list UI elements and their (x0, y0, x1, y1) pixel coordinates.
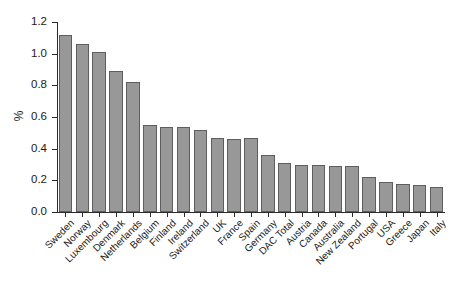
x-tick-mark (251, 212, 252, 217)
x-tick-mark (167, 212, 168, 217)
bar (59, 35, 72, 212)
bar (295, 165, 308, 213)
y-tick-label: 1.2 (7, 16, 47, 28)
x-tick-mark (285, 212, 286, 217)
x-tick-mark (386, 212, 387, 217)
x-tick-mark (99, 212, 100, 217)
x-tick-mark (65, 212, 66, 217)
bar (430, 187, 443, 212)
bar (160, 127, 173, 213)
x-tick-mark (184, 212, 185, 217)
y-tick-label: 0.2 (7, 174, 47, 186)
x-tick-mark (369, 212, 370, 217)
x-tick-mark (116, 212, 117, 217)
y-tick-label: 0.8 (7, 79, 47, 91)
bar (126, 82, 139, 212)
x-tick-mark (82, 212, 83, 217)
x-tick-mark (234, 212, 235, 217)
y-tick-mark (52, 212, 58, 213)
bar (329, 166, 342, 212)
x-tick-mark (200, 212, 201, 217)
x-tick-mark (335, 212, 336, 217)
bar (211, 138, 224, 212)
x-tick-mark (217, 212, 218, 217)
y-tick-label: 0.6 (7, 111, 47, 123)
x-tick-mark (352, 212, 353, 217)
x-tick-mark (133, 212, 134, 217)
bar-chart-figure: % 0.00.20.40.60.81.01.2 SwedenNorwayLuxe… (0, 0, 451, 293)
bar (379, 182, 392, 212)
bar (109, 71, 122, 212)
bar (177, 127, 190, 213)
bar (143, 125, 156, 212)
y-tick-label: 1.0 (7, 48, 47, 60)
plot-area (57, 22, 445, 212)
bar (76, 44, 89, 212)
x-tick-mark (302, 212, 303, 217)
bar (92, 52, 105, 212)
x-tick-mark (318, 212, 319, 217)
bar (278, 163, 291, 212)
bar (413, 185, 426, 212)
bar (312, 165, 325, 213)
bar (227, 139, 240, 212)
bar (362, 177, 375, 212)
y-tick-label: 0.0 (7, 206, 47, 218)
bar (345, 166, 358, 212)
x-tick-mark (403, 212, 404, 217)
x-tick-mark (437, 212, 438, 217)
bar (261, 155, 274, 212)
x-tick-mark (150, 212, 151, 217)
bar (194, 130, 207, 212)
y-tick-label: 0.4 (7, 143, 47, 155)
x-tick-mark (420, 212, 421, 217)
bar (244, 138, 257, 212)
x-tick-mark (268, 212, 269, 217)
bar (396, 184, 409, 213)
